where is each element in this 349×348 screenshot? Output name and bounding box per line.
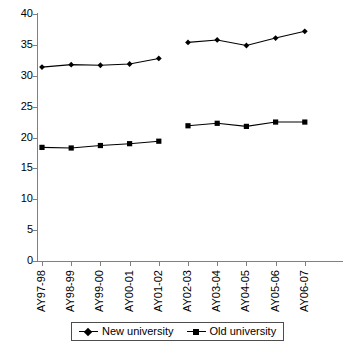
data-point-square: [98, 143, 103, 148]
data-point-square: [244, 124, 249, 129]
data-point-diamond: [273, 35, 279, 41]
square-marker-icon: [187, 327, 206, 336]
series-new-university: [39, 28, 308, 70]
data-point-square: [156, 139, 161, 144]
series-old-university: [39, 119, 307, 150]
data-point-square: [127, 141, 132, 146]
data-point-square: [69, 145, 74, 150]
data-point-square: [215, 121, 220, 126]
data-point-diamond: [98, 62, 104, 68]
data-point-diamond: [156, 56, 162, 62]
data-point-square: [273, 119, 278, 124]
data-point-diamond: [127, 61, 133, 67]
series-plot: [0, 0, 349, 348]
data-point-diamond: [39, 64, 45, 70]
legend-entry-old-university: Old university: [187, 326, 277, 337]
diamond-marker-icon: [79, 327, 98, 336]
data-point-diamond: [185, 40, 191, 46]
legend-label-old-university: Old university: [210, 326, 277, 337]
data-point-diamond: [68, 62, 74, 68]
legend-label-new-university: New university: [102, 326, 174, 337]
line-chart: 0510152025303540 AY97-98AY98-99AY99-00AY…: [0, 0, 349, 348]
data-point-square: [39, 145, 44, 150]
data-point-diamond: [214, 37, 220, 43]
data-point-diamond: [244, 43, 250, 49]
data-point-square: [302, 119, 307, 124]
chart-legend: New university Old university: [71, 322, 284, 341]
data-point-square: [185, 123, 190, 128]
data-point-diamond: [302, 28, 308, 34]
legend-entry-new-university: New university: [79, 326, 174, 337]
